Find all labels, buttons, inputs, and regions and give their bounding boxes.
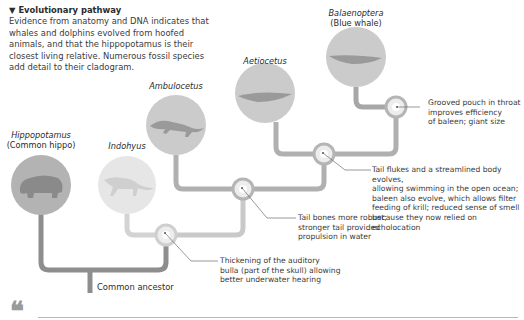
branch-blue-whale (356, 87, 386, 107)
taxon-aetiocetus (235, 63, 295, 123)
branch-ambulocetus (176, 155, 233, 189)
label-blue-whale: Balaenoptera(Blue whale) (320, 8, 392, 28)
taxon-blue-whale (326, 27, 386, 87)
label-hippopotamus: Hippopotamus(Common hippo) (6, 130, 76, 150)
quote-icon: ❝ (10, 298, 24, 320)
branch-node3-node4 (334, 117, 396, 154)
branch-hippo (41, 214, 166, 270)
branch-aetiocetus (276, 122, 314, 154)
taxon-hippopotamus (11, 155, 71, 215)
branch-indohyus (127, 214, 156, 235)
branch-node1-node2 (176, 199, 243, 235)
note-tail-flukes: Tail flukes and a streamlined body evolv… (372, 165, 522, 232)
label-indohyus: Indohyus (97, 141, 157, 151)
label-aetiocetus: Aetiocetus (230, 56, 300, 66)
note-auditory-bulla: Thickening of the auditory bulla (part o… (220, 256, 360, 285)
note-grooved-pouch: Grooved pouch in throat improves efficie… (428, 98, 524, 127)
common-ancestor-label: Common ancestor (97, 282, 174, 292)
divider (38, 317, 518, 318)
taxon-indohyus (98, 156, 156, 214)
branch-node2-node3 (253, 164, 324, 189)
label-ambulocetus: Ambulocetus (141, 81, 211, 91)
